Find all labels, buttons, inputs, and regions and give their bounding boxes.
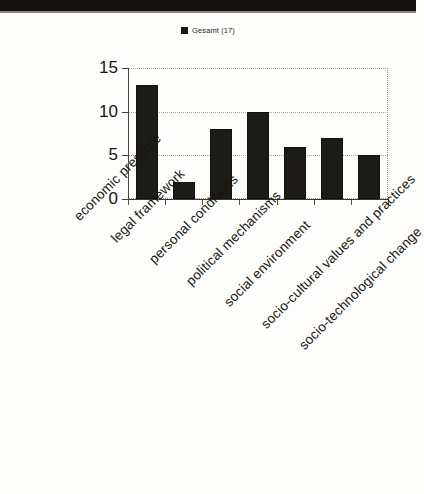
x-tick-label-7: socio-technological change [296,224,424,353]
